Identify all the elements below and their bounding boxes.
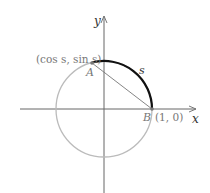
unit-circle-diagram: [0, 0, 210, 193]
point-a-label: A: [86, 67, 94, 78]
arc-label: s: [139, 65, 145, 76]
x-axis-label: x: [192, 113, 199, 125]
point-b-coords: (1, 0): [155, 112, 183, 123]
point-a-coords: (cos s, sin s): [36, 54, 101, 65]
point-b-label: B: [143, 112, 151, 123]
y-axis-label: y: [94, 15, 101, 27]
